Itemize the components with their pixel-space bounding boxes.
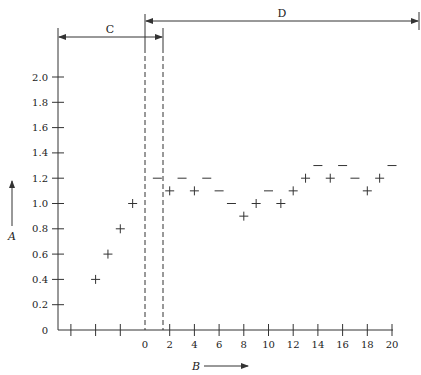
plus-marker [91,275,100,284]
x-tick-label: 18 [361,339,374,350]
y-tick-label: 0.4 [32,274,48,285]
plus-marker [128,199,137,208]
axis-b-indicator: B [191,360,248,373]
axis-b-label: B [191,360,200,373]
plus-marker [190,186,199,195]
data-points [91,166,396,284]
region-c-label: C [106,23,114,36]
plus-marker [301,174,310,183]
plus-marker [239,212,248,221]
y-tick-label: 2.0 [32,72,48,83]
plus-marker [375,174,384,183]
y-tick-label: 1.6 [32,122,48,133]
plus-marker [103,250,112,259]
y-tick-label: 0.8 [32,223,48,234]
y-tick-label: 1.8 [32,97,48,108]
x-tick-label: 6 [216,339,222,350]
y-axis-ticks: 00.20.40.60.81.01.21.41.61.82.0 [32,72,64,336]
x-tick-label: 10 [262,339,275,350]
x-tick-label: 8 [241,339,247,350]
x-tick-label: 20 [386,339,399,350]
axis-a-label: A [7,230,16,243]
plus-marker [276,199,285,208]
plus-marker [363,186,372,195]
x-axis-ticks: 02468101214161820 [71,324,398,350]
y-tick-label: 0.6 [32,249,48,260]
y-tick-label: 1.0 [32,198,48,209]
plus-marker [326,174,335,183]
plus-marker [116,224,125,233]
plus-marker [252,199,261,208]
region-brackets: D C [58,7,419,50]
region-d-label: D [278,7,287,20]
y-tick-label: 0.2 [32,299,48,310]
y-tick-label: 0 [42,325,48,336]
y-tick-label: 1.2 [32,173,48,184]
plus-marker [289,186,298,195]
chart: D C 00.20.40.60.81.01.21.41.61.82.0 0246… [0,0,421,375]
x-tick-label: 2 [167,339,173,350]
plus-marker [165,186,174,195]
x-tick-label: 4 [191,339,197,350]
x-tick-label: 0 [142,339,148,350]
x-tick-label: 16 [336,339,349,350]
x-tick-label: 12 [287,339,300,350]
y-tick-label: 1.4 [32,147,48,158]
x-tick-label: 14 [312,339,325,350]
axis-a-indicator: A [7,181,16,243]
